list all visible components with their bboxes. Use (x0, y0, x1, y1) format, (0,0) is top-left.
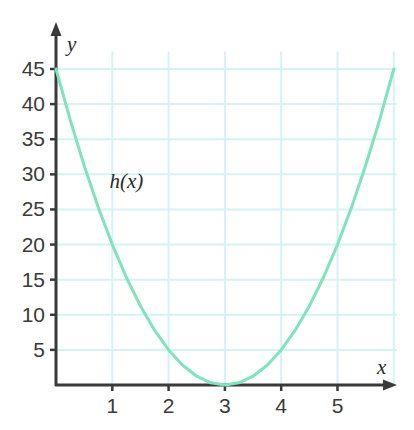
y-tick-label: 10 (22, 303, 45, 326)
y-tick-label: 40 (22, 92, 45, 115)
x-tick-label: 4 (275, 394, 287, 417)
y-tick-label: 35 (22, 127, 45, 150)
y-tick-label: 45 (22, 57, 45, 80)
y-axis-label: y (65, 32, 77, 56)
chart-canvas: 51015202530354045 12345 h(x) y x (0, 0, 414, 430)
y-tick-label: 15 (22, 268, 45, 291)
y-tick-label: 5 (33, 338, 45, 361)
function-label: h(x) (109, 169, 143, 193)
x-axis-label: x (376, 355, 387, 379)
x-tick-label: 3 (219, 394, 231, 417)
y-axis-tick-labels: 51015202530354045 (22, 57, 45, 361)
x-tick-label: 2 (163, 394, 175, 417)
parabola-chart: 51015202530354045 12345 h(x) y x (0, 0, 414, 430)
y-tick-label: 20 (22, 233, 45, 256)
y-tick-label: 25 (22, 197, 45, 220)
y-tick-label: 30 (22, 162, 45, 185)
x-tick-label: 1 (106, 394, 118, 417)
x-tick-label: 5 (332, 394, 344, 417)
chart-background (0, 0, 414, 430)
